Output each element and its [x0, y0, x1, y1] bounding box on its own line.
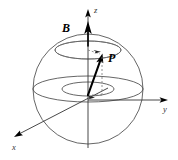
x-axis-label: x [11, 142, 16, 152]
sphere-vector-figure: B P z y x [0, 0, 178, 160]
x-axis-line [19, 88, 108, 134]
figure-canvas: B P z y x [0, 0, 178, 160]
y-axis-label: y [162, 104, 167, 114]
p-vector-line [88, 60, 101, 95]
x-axis-arrowhead [14, 130, 23, 137]
b-vector-label: B [61, 21, 70, 35]
p-vector-label: P [108, 51, 116, 65]
origin-point [87, 94, 89, 96]
z-axis-label: z [93, 5, 98, 15]
